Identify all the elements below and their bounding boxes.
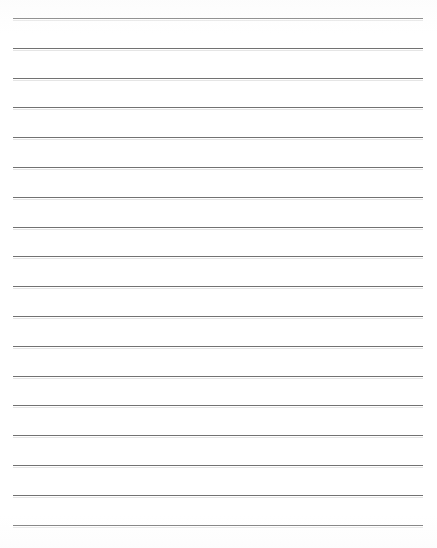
rule-line [13,465,423,466]
rule-line [13,346,423,347]
rule-line [13,286,423,287]
rule-line [13,405,423,406]
rule-line [13,316,423,317]
rule-line [13,525,423,526]
rule-line [13,197,423,198]
rule-line [13,435,423,436]
rule-line [13,227,423,228]
lined-paper-page [0,0,437,548]
rule-line [13,137,423,138]
rule-line [13,376,423,377]
rule-line [13,48,423,49]
rule-line [13,78,423,79]
rule-line [13,495,423,496]
rule-line [13,107,423,108]
rule-line [13,18,423,19]
rule-line [13,256,423,257]
rule-line [13,167,423,168]
